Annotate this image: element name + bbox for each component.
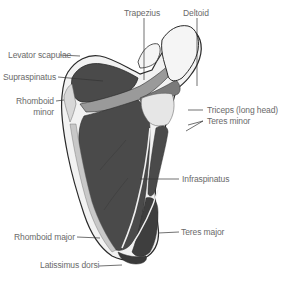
label-deltoid: Deltoid	[183, 8, 209, 18]
label-teres-minor: Teres minor	[207, 116, 250, 126]
label-rhomboid-minor-line2: minor	[14, 107, 54, 117]
leader-teres-minor-2	[186, 121, 203, 131]
scapula-muscle-diagram: Trapezius Deltoid Levator scapulae Supra…	[0, 0, 285, 281]
leader-teres-major	[158, 232, 179, 233]
label-latissimus-dorsi: Latissimus dorsi	[40, 260, 99, 270]
label-teres-major: Teres major	[181, 227, 224, 237]
leader-latissimus-dorsi	[99, 265, 122, 266]
label-supraspinatus: Supraspinatus	[3, 72, 56, 82]
label-triceps-long-head: Triceps (long head)	[207, 105, 278, 115]
label-infraspinatus: Infraspinatus	[182, 174, 229, 184]
label-trapezius: Trapezius	[124, 8, 160, 18]
label-levator-scapulae: Levator scapulae	[8, 50, 71, 60]
label-rhomboid-minor-line1: Rhomboid	[14, 96, 54, 106]
leader-teres-minor-1	[188, 121, 203, 125]
label-rhomboid-major: Rhomboid major	[14, 232, 75, 242]
